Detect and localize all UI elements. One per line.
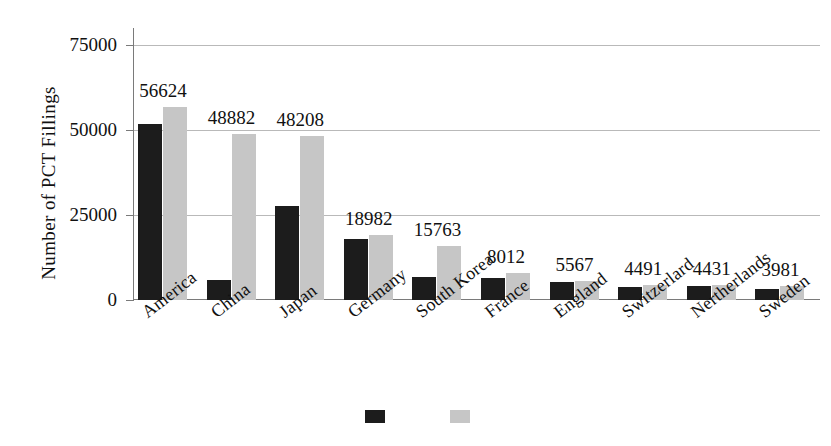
bar-group: 48882 bbox=[203, 45, 272, 300]
bar-value-label: 56624 bbox=[139, 80, 187, 102]
legend-swatch bbox=[450, 410, 470, 423]
bar-value-label: 18982 bbox=[345, 208, 393, 230]
bar-value-label: 5567 bbox=[556, 254, 594, 276]
bar-value-label: 48882 bbox=[208, 107, 256, 129]
legend-item[interactable] bbox=[365, 410, 391, 423]
y-tick-label-0: 0 bbox=[38, 289, 126, 311]
bar-light[interactable] bbox=[300, 136, 324, 300]
y-axis-tick-25000 bbox=[126, 215, 134, 216]
bar-group: 56624 bbox=[134, 45, 203, 300]
bar-value-label: 48208 bbox=[276, 109, 324, 131]
y-axis-tick-0 bbox=[126, 300, 134, 301]
y-tick-label-50000: 50000 bbox=[38, 119, 126, 141]
y-axis-tick-75000 bbox=[126, 45, 134, 46]
y-tick-label-25000: 25000 bbox=[38, 204, 126, 226]
bar-group: 4431 bbox=[683, 45, 752, 300]
bar-light[interactable] bbox=[232, 134, 256, 300]
bar-dark[interactable] bbox=[275, 206, 299, 300]
legend-swatch bbox=[365, 410, 385, 423]
bar-value-label: 15763 bbox=[414, 219, 462, 241]
y-axis-tick-50000 bbox=[126, 130, 134, 131]
bar-group: 5567 bbox=[546, 45, 615, 300]
chart-legend bbox=[0, 410, 831, 432]
bar-group: 48208 bbox=[271, 45, 340, 300]
y-axis-tick-labels: 0250005000075000 bbox=[38, 0, 126, 446]
bar-chart: Number of PCT Fillings 0250005000075000 … bbox=[0, 0, 831, 446]
bar-group: 18982 bbox=[340, 45, 409, 300]
legend-item[interactable] bbox=[450, 410, 476, 423]
bar-dark[interactable] bbox=[138, 124, 162, 300]
y-tick-label-75000: 75000 bbox=[38, 34, 126, 56]
